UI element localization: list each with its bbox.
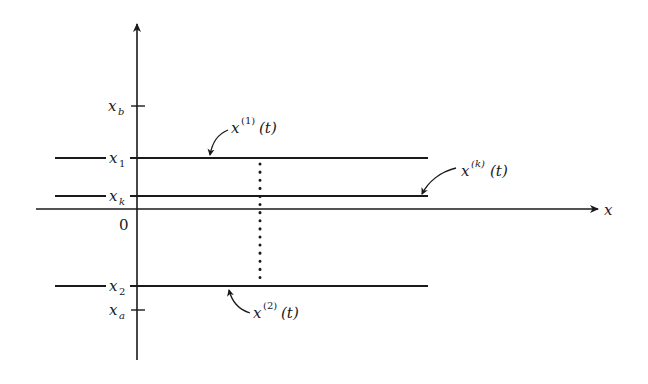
pointer-arrow-x1t [210, 130, 228, 155]
svg-text:(t): (t) [281, 304, 299, 322]
svg-text:(t): (t) [490, 162, 508, 180]
pointer-arrow-x2t [229, 290, 250, 313]
svg-text:x: x [109, 149, 118, 167]
label-xk: x k [109, 187, 125, 207]
svg-text:x: x [109, 277, 118, 295]
svg-text:x: x [109, 301, 118, 319]
svg-text:(2): (2) [263, 300, 277, 311]
x-axis-label: x [604, 201, 613, 219]
svg-text:x: x [109, 187, 118, 205]
svg-text:x: x [108, 97, 117, 115]
label-xa: x a [109, 301, 125, 321]
svg-text:x: x [253, 304, 262, 322]
curve-label-xkt: x (k) (t) [461, 158, 508, 180]
svg-text:b: b [118, 106, 124, 117]
label-xb: x b [108, 97, 124, 117]
svg-text:2: 2 [119, 286, 125, 297]
svg-text:(1): (1) [241, 115, 255, 126]
svg-text:k: k [119, 196, 125, 207]
curve-label-x1t: x (1) (t) [231, 115, 277, 137]
origin-label: 0 [119, 216, 129, 234]
pointer-arrow-xkt [422, 168, 456, 194]
svg-text:1: 1 [119, 158, 125, 169]
svg-text:a: a [119, 310, 125, 321]
label-x1: x 1 [109, 149, 125, 169]
phase-line-diagram: x 0 x b x 1 x k x 2 x a x (1) (t) [0, 0, 648, 384]
label-x2: x 2 [109, 277, 125, 297]
svg-text:(k): (k) [471, 158, 485, 169]
svg-text:(t): (t) [259, 119, 277, 137]
curve-label-x2t: x (2) (t) [253, 300, 299, 322]
svg-text:x: x [461, 162, 470, 180]
svg-text:x: x [231, 119, 240, 137]
